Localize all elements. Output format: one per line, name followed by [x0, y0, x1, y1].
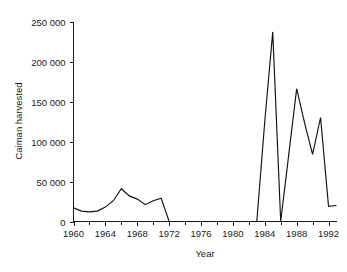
x-tick-label: 1984: [254, 228, 275, 239]
y-axis-title: Caiman harvested: [13, 82, 24, 159]
x-tick-label: 1976: [190, 228, 211, 239]
y-tick-label: 100 000: [31, 137, 65, 148]
x-tick-label: 1980: [222, 228, 243, 239]
y-tick-label: 150 000: [31, 97, 65, 108]
caiman-harvest-line-chart: 050 000100 000150 000200 000250 000 1960…: [0, 0, 347, 272]
y-tick-label: 250 000: [31, 17, 65, 28]
y-tick-label: 50 000: [36, 177, 65, 188]
x-axis-title: Year: [195, 248, 214, 259]
x-tick-label: 1988: [286, 228, 307, 239]
y-tick-label: 0: [60, 217, 65, 228]
chart-figure: 050 000100 000150 000200 000250 000 1960…: [0, 0, 347, 272]
y-tick-label: 200 000: [31, 57, 65, 68]
x-tick-label: 1972: [159, 228, 180, 239]
x-axis-tick-labels: 196019641968197219761980198419881992: [63, 228, 339, 239]
x-tick-label: 1960: [63, 228, 84, 239]
x-tick-label: 1968: [127, 228, 148, 239]
x-tick-label: 1992: [318, 228, 339, 239]
x-tick-label: 1964: [95, 228, 116, 239]
